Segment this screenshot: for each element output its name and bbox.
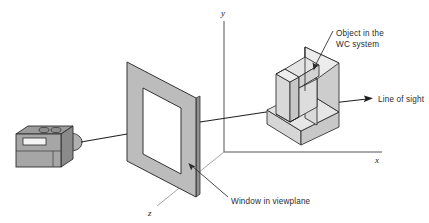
object-label-line1: Object in the [336, 29, 384, 38]
camera-viewfinder [23, 138, 46, 145]
object-label-line2: WC system [336, 40, 379, 49]
figure-canvas: Object in the WC system Line of sight Wi… [0, 0, 429, 223]
object-left-wall-inner-face [290, 77, 299, 122]
window-label: Window in viewplane [231, 197, 311, 206]
viewing-pipeline-diagram: Object in the WC system Line of sight Wi… [0, 0, 429, 223]
y-axis-label: y [220, 8, 225, 18]
ray-segment-camera-to-window [81, 133, 133, 142]
camera [16, 126, 82, 167]
line-of-sight-label: Line of sight [378, 95, 425, 104]
camera-knob-right [51, 127, 61, 132]
x-axis-label: x [374, 155, 379, 165]
wc-object [267, 47, 339, 145]
viewplane-thickness-edge [196, 96, 200, 197]
z-axis-label: z [147, 208, 152, 218]
camera-knob-left [39, 127, 49, 132]
viewplane-frame [127, 62, 200, 197]
